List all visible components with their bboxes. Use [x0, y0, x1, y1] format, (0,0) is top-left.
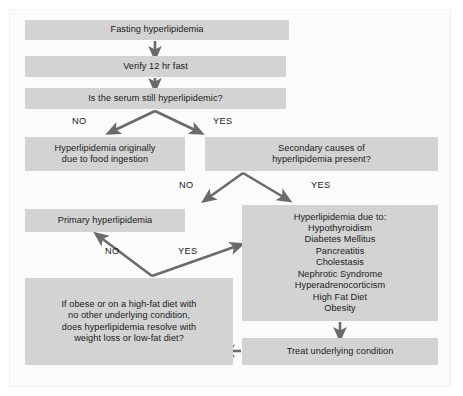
node-label: Is the serum still hyperlipidemic?	[29, 93, 282, 104]
edge-label-obese-no: NO	[105, 246, 120, 256]
node-if-obese-high-fat-diet: If obese or on a high-fat diet with no o…	[25, 278, 233, 365]
edge-label-secondary-no: NO	[179, 180, 194, 190]
node-treat-underlying-condition: Treat underlying condition	[242, 338, 438, 365]
node-label: Treat underlying condition	[246, 346, 434, 357]
node-secondary-causes-present: Secondary causes of hyperlipidemia prese…	[205, 137, 438, 171]
node-verify-12hr-fast: Verify 12 hr fast	[25, 56, 286, 77]
node-label: Hyperlipidemia due to: Hypothyroidism Di…	[246, 212, 434, 315]
node-label: Secondary causes of hyperlipidemia prese…	[209, 143, 434, 166]
node-label: Primary hyperlipidemia	[29, 215, 181, 226]
edge-label-serum-yes: YES	[213, 116, 233, 126]
node-fasting-hyperlipidemia: Fasting hyperlipidemia	[25, 20, 289, 40]
node-label: Fasting hyperlipidemia	[29, 24, 285, 35]
flowchart-canvas: Fasting hyperlipidemia Verify 12 hr fast…	[0, 0, 463, 396]
edge-label-obese-yes: YES	[178, 246, 198, 256]
node-label: Verify 12 hr fast	[29, 61, 282, 72]
edge-label-secondary-yes: YES	[311, 180, 331, 190]
edge-label-serum-no: NO	[72, 116, 87, 126]
node-primary-hyperlipidemia: Primary hyperlipidemia	[25, 209, 185, 232]
node-label: If obese or on a high-fat diet with no o…	[29, 299, 229, 345]
node-hyperlipidemia-due-to-list: Hyperlipidemia due to: Hypothyroidism Di…	[242, 205, 438, 321]
node-hyperlipidemia-food-ingestion: Hyperlipidemia originally due to food in…	[25, 137, 185, 171]
node-is-serum-still-hyperlipidemic: Is the serum still hyperlipidemic?	[25, 88, 286, 109]
node-label: Hyperlipidemia originally due to food in…	[29, 143, 181, 166]
